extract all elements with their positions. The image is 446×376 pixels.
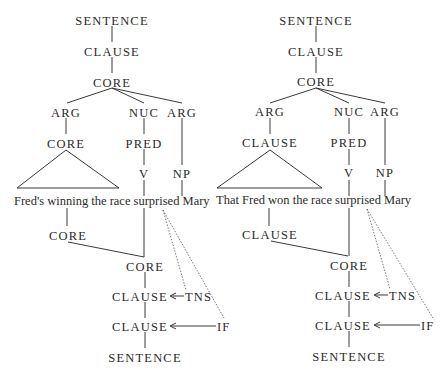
node-np: NP bbox=[173, 167, 191, 181]
edge bbox=[316, 88, 385, 103]
node-arg: ARG bbox=[51, 106, 81, 120]
sentence-text: That Fred won the race surprised Mary bbox=[216, 193, 412, 207]
edge bbox=[112, 88, 144, 103]
node-v: V bbox=[139, 167, 149, 181]
node-nuc: NUC bbox=[334, 105, 364, 119]
node-clause: CLAUSE bbox=[288, 45, 344, 59]
node-core: CORE bbox=[49, 229, 87, 243]
edge bbox=[316, 88, 349, 103]
node-np: NP bbox=[376, 166, 394, 180]
node-sentence: SENTENCE bbox=[75, 14, 149, 28]
node-if: IF bbox=[217, 320, 231, 334]
node-arg: ARG bbox=[370, 105, 400, 119]
subtree-triangle bbox=[217, 150, 322, 188]
node-sentence: SENTENCE bbox=[108, 351, 182, 365]
node-clause: CLAUSE bbox=[112, 290, 168, 304]
node-clause: CLAUSE bbox=[112, 320, 168, 334]
node-pred: PRED bbox=[331, 136, 368, 150]
node-nuc: NUC bbox=[129, 106, 159, 120]
sentence-subject: That Fred won the race bbox=[216, 193, 335, 207]
node-core: CORE bbox=[93, 76, 131, 90]
node-pred: PRED bbox=[126, 137, 163, 151]
edge bbox=[68, 242, 144, 257]
node-arg: ARG bbox=[255, 105, 285, 119]
node-core: CORE bbox=[47, 137, 85, 151]
node-clause: CLAUSE bbox=[242, 228, 298, 242]
sentence-text: Fred's winning the race surprised Mary bbox=[14, 194, 210, 208]
node-core: CORE bbox=[330, 259, 368, 273]
node-sentence: SENTENCE bbox=[312, 350, 386, 364]
edge bbox=[270, 88, 316, 103]
node-core: CORE bbox=[297, 75, 335, 89]
node-arg: ARG bbox=[167, 106, 197, 120]
right-tree: SENTENCE CLAUSE CORE ARG NUC ARG CLAUSE … bbox=[216, 14, 435, 364]
tns-dotted-link bbox=[367, 209, 390, 289]
node-v: V bbox=[344, 166, 354, 180]
sentence-object: Mary bbox=[384, 193, 412, 207]
edge bbox=[67, 88, 112, 103]
sentence-object: Mary bbox=[183, 194, 211, 208]
diagram-canvas: SENTENCE CLAUSE CORE ARG NUC ARG CORE PR… bbox=[0, 0, 446, 376]
sentence-verb: surprised bbox=[335, 193, 384, 207]
subtree-triangle bbox=[17, 150, 119, 188]
tns-dotted-link bbox=[163, 210, 186, 290]
node-tns: TNS bbox=[389, 289, 416, 303]
node-core: CORE bbox=[126, 260, 164, 274]
sentence-subject: Fred's winning the race bbox=[14, 194, 134, 208]
sentence-verb: surprised bbox=[134, 194, 183, 208]
node-clause: CLAUSE bbox=[315, 289, 371, 303]
edge bbox=[271, 241, 348, 256]
tree-diagram: SENTENCE CLAUSE CORE ARG NUC ARG CORE PR… bbox=[0, 0, 446, 376]
left-tree: SENTENCE CLAUSE CORE ARG NUC ARG CORE PR… bbox=[14, 14, 231, 365]
node-sentence: SENTENCE bbox=[279, 14, 353, 28]
node-tns: TNS bbox=[185, 290, 212, 304]
node-clause: CLAUSE bbox=[242, 136, 298, 150]
node-clause: CLAUSE bbox=[315, 319, 371, 333]
node-if: IF bbox=[421, 319, 435, 333]
edge bbox=[112, 88, 182, 103]
node-clause: CLAUSE bbox=[84, 45, 140, 59]
